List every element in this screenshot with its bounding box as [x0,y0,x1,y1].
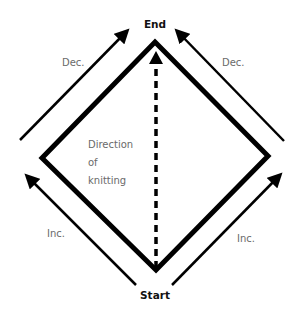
inc-left-label: Inc. [47,228,65,239]
end-label: End [144,18,166,30]
dec-right-arrow [178,32,284,141]
direction-arrowhead-icon [149,51,163,64]
direction-label-line3: knitting [88,175,126,186]
dec-right-label: Dec. [222,57,245,68]
knitting-diamond-diagram: End Start Dec. Dec. Inc. Inc. Direction … [0,0,306,314]
inc-right-label: Inc. [237,233,255,244]
inc-right-arrow [172,176,279,285]
dec-left-label: Dec. [62,57,85,68]
direction-label-line2: of [88,157,98,168]
direction-label-line1: Direction [88,139,133,150]
start-label: Start [140,289,170,301]
